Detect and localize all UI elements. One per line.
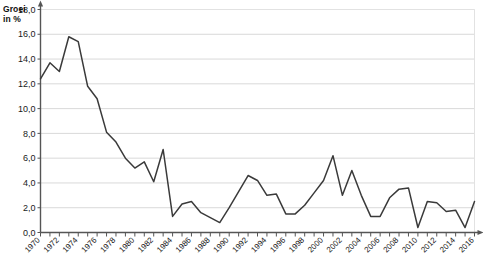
x-axis-tick-label: 1986 [174,235,193,254]
x-axis-tick-label: 1974 [61,235,80,254]
grid-lines [41,10,475,208]
x-axis-tick-label: 2016 [457,235,476,254]
y-axis-tick-label: 10,0 [18,104,36,114]
x-axis-tick-label: 1984 [155,235,174,254]
x-axis-tick-label: 1994 [249,235,268,254]
y-axis-tick-label: 6,0 [23,153,36,163]
chart-container: Groei in % 0,02,04,06,08,010,012,014,016… [0,0,483,278]
x-axis-tick-label: 2006 [363,235,382,254]
y-axis-tick-label: 4,0 [23,178,36,188]
plot-border [41,10,475,233]
x-axis-tick-label: 1982 [136,235,155,254]
x-axis-tick-label: 1978 [98,235,117,254]
x-axis-tick-label: 2004 [344,235,363,254]
y-axis-tick-label: 2,0 [23,203,36,213]
x-axis-tick-label: 1998 [287,235,306,254]
y-axis-title-line2: in % [3,14,26,24]
x-axis-tick-label: 1972 [42,235,61,254]
y-axis-tick-label: 8,0 [23,129,36,139]
y-axis-title: Groei in % [3,4,26,24]
x-axis-tick-label: 1980 [117,235,136,254]
x-axis-tick-label: 2010 [400,235,419,254]
x-axis-tick-label: 1990 [212,235,231,254]
y-axis [38,1,44,233]
data-series-line [41,37,475,228]
x-axis-tick-label: 1976 [80,235,99,254]
x-axis-tick-label: 2002 [325,235,344,254]
x-axis-tick-label: 1970 [23,235,42,254]
y-axis-tick-labels: 0,02,04,06,08,010,012,014,016,018,0 [18,5,36,238]
x-axis-tick-label: 2014 [438,235,457,254]
x-axis-tick-label: 2000 [306,235,325,254]
y-axis-tick-label: 16,0 [18,29,36,39]
x-axis-tick-labels: 1970197219741976197819801982198419861988… [23,235,476,254]
x-axis-arrow [478,230,483,235]
x-axis-tick-label: 2012 [419,235,438,254]
x-axis-tick-label: 2008 [381,235,400,254]
y-axis-title-line1: Groei [3,4,26,14]
series-line-groei [41,37,475,228]
y-axis-tick-label: 12,0 [18,79,36,89]
y-axis-tick-label: 14,0 [18,54,36,64]
y-axis-arrow [38,1,43,7]
x-axis-tick-label: 1988 [193,235,212,254]
x-axis-tick-label: 1996 [268,235,287,254]
line-chart: 0,02,04,06,08,010,012,014,016,018,0 1970… [0,0,483,278]
x-axis-tick-label: 1992 [231,235,250,254]
